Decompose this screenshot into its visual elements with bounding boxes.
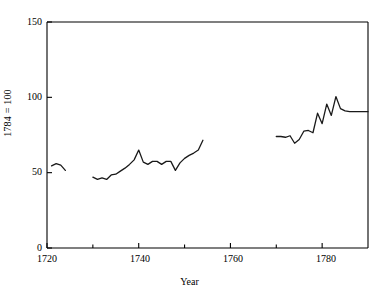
data-line-segment-1	[52, 164, 66, 171]
data-line-segment-3	[276, 97, 368, 144]
plot-area	[0, 0, 379, 296]
data-series-group	[52, 97, 368, 180]
chart-figure: 1784 = 100 150 100 50 0 1720 1740 1760 1…	[0, 0, 379, 296]
axis-frame	[47, 22, 368, 248]
axis-ticks	[47, 22, 322, 248]
data-line-segment-2	[93, 140, 203, 179]
